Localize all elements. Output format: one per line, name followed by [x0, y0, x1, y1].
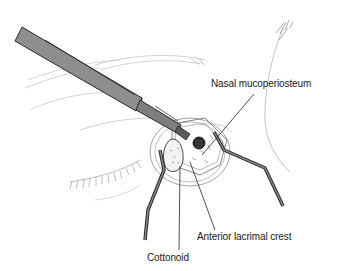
drill-instrument — [15, 27, 205, 149]
leader-cottonoid — [179, 166, 180, 250]
leader-anterior-lacrimal-crest — [190, 162, 215, 230]
left-retractor — [145, 150, 164, 240]
label-anterior-lacrimal-crest: Anterior lacrimal crest — [197, 231, 291, 243]
eyelashes — [70, 160, 141, 200]
label-cottonoid: Cottonoid — [147, 252, 189, 264]
face-contour — [265, 20, 293, 172]
leader-nasal-mucoperiosteum — [202, 94, 254, 155]
label-nasal-mucoperiosteum: Nasal mucoperiosteum — [211, 78, 311, 90]
